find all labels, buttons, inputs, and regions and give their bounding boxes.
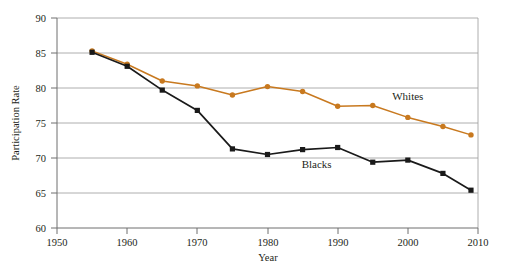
series-line-blacks — [92, 52, 471, 190]
cropped-caption-sliver — [0, 0, 508, 5]
x-tick-label-1950: 1950 — [47, 237, 68, 248]
chart-container: 90 85 80 75 70 65 60 Participation Rate … — [0, 0, 508, 263]
y-tick-label-80: 80 — [36, 83, 47, 94]
data-point — [440, 171, 445, 176]
data-point — [125, 64, 130, 69]
y-tick-label-60: 60 — [36, 223, 47, 234]
series-blacks — [89, 50, 473, 193]
x-tick-label-1970: 1970 — [187, 237, 208, 248]
y-axis: 90 85 80 75 70 65 60 Participation Rate — [10, 13, 57, 234]
x-tick-label-2010: 2010 — [468, 237, 489, 248]
data-point — [335, 104, 340, 109]
y-tick-label-70: 70 — [36, 153, 47, 164]
data-point — [405, 158, 410, 163]
x-tick-label-2000: 2000 — [398, 237, 419, 248]
data-point — [160, 88, 165, 93]
data-point — [300, 89, 305, 94]
data-point — [195, 108, 200, 113]
data-point — [230, 92, 235, 97]
y-axis-title: Participation Rate — [10, 85, 21, 161]
data-point — [230, 146, 235, 151]
gridlines-horizontal — [57, 53, 478, 193]
data-point — [300, 147, 305, 152]
data-point — [89, 50, 94, 55]
data-point — [468, 188, 473, 193]
data-point — [195, 83, 200, 88]
data-point — [160, 78, 165, 83]
y-tick-label-90: 90 — [36, 13, 47, 24]
x-axis: 1950 1960 1970 1980 1990 2000 2010 Year — [47, 228, 489, 263]
series-label-whites: Whites — [392, 90, 423, 102]
y-tick-label-65: 65 — [36, 188, 47, 199]
data-point — [405, 115, 410, 120]
line-chart: 90 85 80 75 70 65 60 Participation Rate … — [0, 0, 508, 263]
x-tick-label-1980: 1980 — [258, 237, 279, 248]
series-label-blacks: Blacks — [302, 158, 332, 170]
data-point — [335, 145, 340, 150]
data-point — [468, 132, 473, 137]
data-point — [440, 124, 445, 129]
data-point — [370, 160, 375, 165]
data-point — [265, 152, 270, 157]
y-tick-label-85: 85 — [36, 48, 47, 59]
data-series-layer — [89, 48, 473, 193]
x-axis-title: Year — [258, 252, 278, 263]
data-point — [370, 103, 375, 108]
x-tick-label-1960: 1960 — [117, 237, 138, 248]
y-tick-label-75: 75 — [36, 118, 47, 129]
data-point — [265, 84, 270, 89]
x-tick-label-1990: 1990 — [328, 237, 349, 248]
